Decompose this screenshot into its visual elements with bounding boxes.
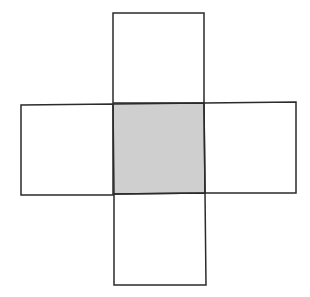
square-center-shaded bbox=[113, 103, 205, 194]
cross-net-diagram bbox=[0, 0, 310, 297]
square-top bbox=[113, 13, 204, 103]
square-bottom bbox=[114, 193, 206, 285]
square-right bbox=[204, 102, 296, 193]
square-left bbox=[21, 104, 113, 195]
